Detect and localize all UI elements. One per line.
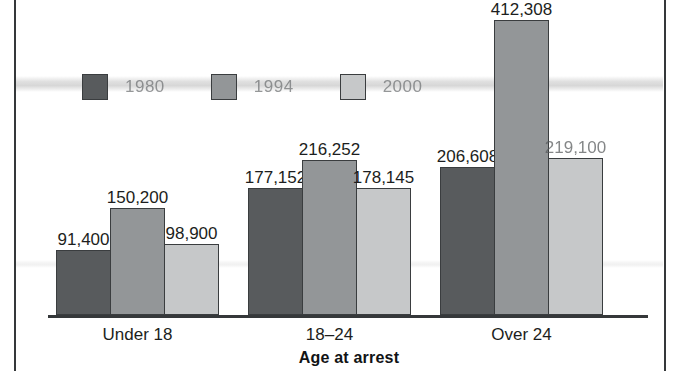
bar-1994-under-18: 150,200: [110, 208, 165, 315]
bar-value-label: 150,200: [107, 189, 168, 206]
bar-1980-under-18: 91,400: [56, 250, 111, 315]
bar-value-label: 216,252: [299, 141, 360, 158]
category-label-2: 18–24: [306, 325, 353, 345]
category-label-1: Under 18: [103, 325, 173, 345]
x-axis-line: [48, 315, 648, 318]
bar-2000-under-18: 98,900: [164, 244, 219, 315]
bar-2000-over-24: 219,100: [548, 158, 603, 315]
bar-value-label: 177,152: [245, 169, 306, 186]
bar-1994-18-24: 216,252: [302, 160, 357, 315]
bar-value-label: 91,400: [58, 231, 110, 248]
bar-value-label: 98,900: [166, 225, 218, 242]
bar-group-3: 206,608412,308219,100: [440, 20, 603, 315]
bar-value-label: 206,608: [437, 148, 498, 165]
bar-value-label: 219,100: [545, 139, 606, 156]
bar-1980-18-24: 177,152: [248, 188, 303, 315]
x-axis-title: Age at arrest: [0, 349, 698, 367]
bar-chart-figure: 1980 1994 2000 91,400150,20098,900177,15…: [0, 0, 698, 371]
page-rule-left: [14, 0, 16, 371]
bar-1980-over-24: 206,608: [440, 167, 495, 315]
bar-value-label: 178,145: [353, 169, 414, 186]
bar-value-label: 412,308: [491, 1, 552, 18]
category-label-3: Over 24: [491, 325, 551, 345]
bar-1994-over-24: 412,308: [494, 20, 549, 315]
page-rule-right: [664, 0, 666, 371]
bar-group-1: 91,400150,20098,900: [56, 20, 219, 315]
bar-group-2: 177,152216,252178,145: [248, 20, 411, 315]
bar-2000-18-24: 178,145: [356, 188, 411, 315]
plot-area: 91,400150,20098,900177,152216,252178,145…: [48, 20, 648, 318]
